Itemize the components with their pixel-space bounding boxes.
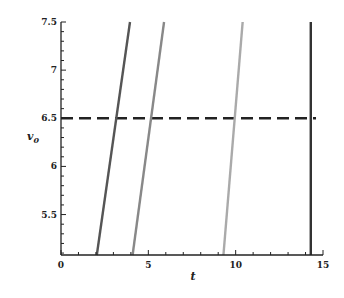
- x-tick-label: 0: [58, 260, 64, 270]
- series-curve-1: [97, 22, 130, 255]
- chart: 5.566.577.5051015 t v0: [0, 0, 344, 298]
- y-axis-label: v0: [27, 130, 39, 145]
- axes: 5.566.577.5051015: [41, 17, 329, 270]
- y-tick-label: 7.5: [41, 17, 57, 27]
- y-tick-label: 5.5: [41, 210, 57, 220]
- x-tick-label: 15: [317, 260, 330, 270]
- x-axis-label: t: [190, 270, 195, 283]
- series-curve-2: [133, 22, 164, 255]
- y-tick-label: 7: [51, 65, 57, 75]
- x-tick-label: 10: [229, 260, 242, 270]
- plot-area: [61, 22, 316, 255]
- x-tick-label: 5: [145, 260, 151, 270]
- y-axis-label-sub: 0: [33, 135, 39, 145]
- y-tick-label: 6.5: [41, 113, 57, 123]
- y-tick-label: 6: [51, 161, 57, 171]
- series-curve-3: [223, 22, 242, 255]
